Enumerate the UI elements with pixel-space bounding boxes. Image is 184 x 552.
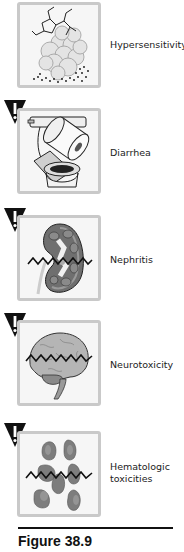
nephritis-illustration	[17, 215, 101, 301]
item-label: Hypersensitivity	[110, 39, 184, 51]
kidney-icon	[20, 218, 98, 298]
neurotoxicity-illustration	[17, 320, 101, 406]
caption-divider	[18, 527, 173, 529]
hypersensitivity-illustration	[17, 2, 101, 88]
toilet-with-paper-roll-icon	[20, 111, 98, 191]
item-label: Diarrhea	[110, 147, 151, 159]
item-label: Nephritis	[110, 254, 153, 266]
diarrhea-illustration	[17, 108, 101, 194]
blood-cells-icon	[20, 434, 98, 514]
immune-cell-with-molecule-icon	[20, 5, 98, 85]
brain-icon	[20, 323, 98, 403]
item-label: Hematologic toxicities	[110, 461, 174, 485]
hematologic-illustration	[17, 431, 101, 517]
figure-caption: Figure 38.9	[18, 533, 92, 549]
item-label: Neurotoxicity	[110, 359, 173, 371]
